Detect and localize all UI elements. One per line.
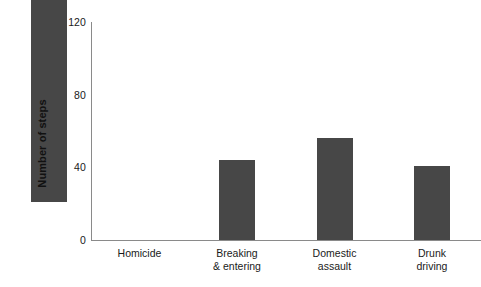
x-tick-label-line: Homicide [118, 247, 162, 260]
x-tick-label-line: assault [313, 260, 357, 273]
y-tick-label: 40 [74, 161, 86, 173]
bars-layer [91, 22, 481, 241]
y-axis-title: Number of steps [31, 0, 53, 287]
bar-domestic-assault [414, 166, 450, 240]
y-tick-label: 0 [80, 234, 86, 246]
x-tick-label-line: Drunk [417, 247, 448, 260]
plot-area: 0 40 80 120 [91, 22, 481, 241]
x-tick-label-drunk-driving: Drunkdriving [417, 247, 448, 273]
x-tick-label-homicide: Homicide [118, 247, 162, 260]
x-tick-label-domestic-assault: Domesticassault [313, 247, 357, 273]
y-tick-label: 120 [68, 16, 86, 28]
y-tick-label: 80 [74, 89, 86, 101]
x-axis-labels: Homicide Breaking& entering Domesticassa… [91, 247, 481, 287]
bar-breaking-entering [317, 138, 353, 240]
x-tick-label-line: Breaking [213, 247, 261, 260]
bar-chart: Number of steps 0 40 80 120 Homicide Bre… [31, 0, 67, 202]
x-tick-label-breaking-entering: Breaking& entering [213, 247, 261, 273]
bar-homicide [219, 160, 255, 240]
x-tick-label-line: driving [417, 260, 448, 273]
x-tick-label-line: & entering [213, 260, 261, 273]
x-tick-label-line: Domestic [313, 247, 357, 260]
